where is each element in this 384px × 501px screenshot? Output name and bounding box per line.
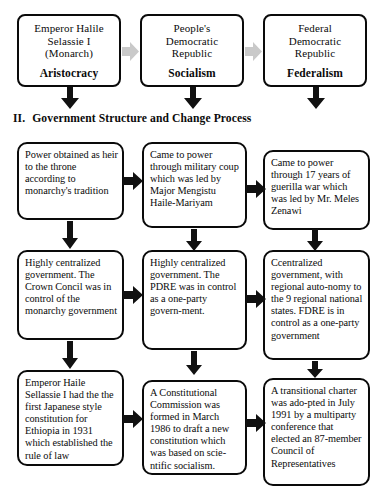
regime-line: People's: [145, 22, 239, 35]
cell-constitution-pdre: A Constitutional Commission was formed i…: [142, 380, 247, 475]
regime-line: Republic: [145, 47, 239, 60]
regime-box-monarchy: Emperor Halile Selassie I (Monarch) Aris…: [17, 14, 121, 87]
section-heading: II.Government Structure and Change Proce…: [13, 112, 251, 125]
arrow-right-row3-col2-col3: [246, 290, 266, 308]
cell-rise-to-power-monarchy: Power obtained as heir to the throne acc…: [17, 142, 124, 220]
cell-structure-monarchy: Highly centralized government. The Crown…: [17, 250, 124, 340]
regime-line: Republic: [268, 47, 362, 60]
cell-text: Came to power through 17 years of gueril…: [271, 157, 364, 217]
cell-text: A transitional charter was ado-pted in J…: [271, 385, 364, 470]
regime-line: Democratic: [268, 35, 362, 48]
cell-text: Highly centralized government. The PDRE …: [150, 257, 241, 317]
arrow-down-pdre: [184, 87, 202, 109]
arrow-down-row2-col3: [307, 229, 323, 251]
regime-line: Democratic: [145, 35, 239, 48]
arrow-right-row2-col1-col2: [123, 172, 143, 190]
arrow-down-row3-col2: [186, 351, 202, 375]
arrow-right-row2-col2-col3: [246, 180, 266, 198]
regime-line: Federal: [268, 22, 362, 35]
regime-ideology: Aristocracy: [22, 67, 116, 80]
regime-box-pdre: People's Democratic Republic Socialism: [140, 14, 244, 87]
cell-rise-to-power-pdre: Came to power through military coup whic…: [142, 142, 247, 228]
cell-text: Highly centralized government. The Crown…: [25, 257, 118, 317]
arrow-right-gray-monarchy-to-pdre: [122, 42, 139, 61]
cell-constitution-fdre: A transitional charter was ado-pted in J…: [263, 378, 370, 486]
regime-box-fdre: Federal Democratic Republic Federalism: [263, 14, 367, 87]
cell-rise-to-power-fdre: Came to power through 17 years of gueril…: [263, 150, 370, 230]
arrow-right-row4-col1-col2: [123, 410, 143, 428]
cell-text: Came to power through military coup whic…: [150, 149, 241, 209]
cell-structure-fdre: Ccentralized government, with regional a…: [263, 250, 370, 360]
arrow-down-row3-col3: [307, 361, 323, 378]
regime-ideology: Federalism: [268, 67, 362, 80]
arrow-down-monarchy: [61, 87, 79, 109]
regime-ideology: Socialism: [145, 67, 239, 80]
cell-text: A Constitutional Commission was formed i…: [150, 387, 241, 472]
arrow-right-row3-col1-col2: [123, 286, 143, 304]
arrow-down-row2-col1: [62, 221, 78, 249]
section-number: II.: [13, 112, 25, 125]
arrow-right-gray-pdre-to-fdre: [245, 42, 262, 61]
diagram-canvas: Emperor Halile Selassie I (Monarch) Aris…: [0, 0, 384, 501]
cell-text: Ccentralized government, with regional a…: [271, 257, 364, 342]
cell-structure-pdre: Highly centralized government. The PDRE …: [142, 250, 247, 350]
arrow-right-row4-col2-col3: [246, 414, 266, 432]
arrow-down-row2-col2: [186, 229, 202, 251]
arrow-down-fdre: [307, 87, 325, 109]
arrow-down-row3-col1: [62, 341, 78, 369]
section-title: Government Structure and Change Process: [32, 112, 251, 125]
cell-text: Power obtained as heir to the throne acc…: [25, 149, 118, 197]
regime-line: Selassie I: [22, 35, 116, 48]
cell-text: Emperor Haile Sellassie I had the the fi…: [25, 377, 118, 462]
cell-constitution-monarchy: Emperor Haile Sellassie I had the the fi…: [17, 370, 124, 466]
regime-line: (Monarch): [22, 47, 116, 60]
regime-line: Emperor Halile: [22, 22, 116, 35]
